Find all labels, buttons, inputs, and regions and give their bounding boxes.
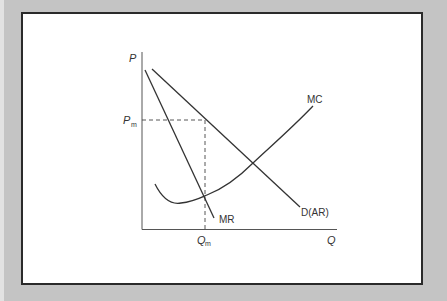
monopoly-diagram: P Q P m Q m MR D(AR) MC [0,0,447,301]
mc-curve [155,106,313,203]
mr-label: MR [219,214,235,225]
x-axis-label: Q [327,234,336,246]
demand-curve [152,69,300,207]
qm-label-subscript: m [205,240,211,247]
mc-label: MC [307,94,323,105]
demand-label: D(AR) [301,207,329,218]
pm-label-subscript: m [131,121,137,128]
y-axis-label: P [129,52,137,64]
pm-label: P [123,114,131,126]
